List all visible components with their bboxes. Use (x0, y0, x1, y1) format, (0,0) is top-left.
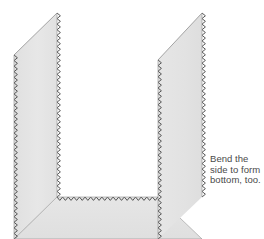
left-panel-right-pinked (57, 13, 60, 197)
diagram-canvas: Bend the side to form bottom, too. (0, 0, 264, 239)
caption-text: Bend the side to form bottom, too. (210, 154, 264, 186)
right-side-panel (158, 13, 202, 239)
right-panel-right-pinked (202, 13, 205, 197)
folded-sheet-figure (0, 0, 264, 239)
right-panel-fill (158, 13, 202, 239)
